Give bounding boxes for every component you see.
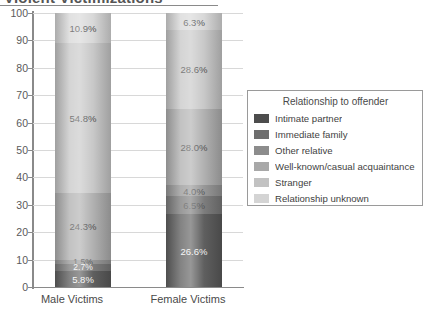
legend-item-label: Well-known/casual acquaintance	[275, 161, 415, 172]
bar-segment-female[interactable]: 28.6%	[166, 30, 222, 108]
bar-male-victims[interactable]: 10.9%54.8%24.3%1.5%2.7%5.8%	[55, 13, 111, 287]
legend-item-label: Intimate partner	[275, 113, 342, 124]
legend-item-label: Other relative	[275, 145, 333, 156]
y-axis-tick: 30	[16, 200, 28, 210]
legend-item[interactable]: Stranger	[254, 175, 417, 190]
bar-segment-value-label: 6.5%	[166, 200, 222, 211]
bar-segment-male[interactable]: 10.9%	[55, 13, 111, 43]
y-axis-tick: 10	[16, 255, 28, 265]
legend-item[interactable]: Immediate family	[254, 127, 417, 142]
legend-item[interactable]: Relationship unknown	[254, 191, 417, 206]
bar-female-victims[interactable]: 6.3%28.6%28.0%4.0%6.5%26.6%	[166, 13, 222, 287]
bar-segment-value-label: 26.6%	[166, 245, 222, 256]
bar-segment-value-label: 6.3%	[166, 16, 222, 27]
x-axis-label-female: Female Victims	[140, 293, 236, 305]
bar-segment-value-label: 28.0%	[166, 142, 222, 153]
bar-segment-male[interactable]: 24.3%	[55, 193, 111, 260]
x-axis-line	[32, 287, 244, 288]
legend-swatch-icon	[254, 194, 269, 203]
legend-item-label: Relationship unknown	[275, 193, 369, 204]
bar-segment-value-label: 28.6%	[166, 64, 222, 75]
bar-segment-male[interactable]: 2.7%	[55, 264, 111, 271]
bar-segment-male[interactable]: 54.8%	[55, 43, 111, 193]
legend-swatch-icon	[254, 114, 269, 123]
y-axis-tick: 20	[16, 227, 28, 237]
bar-segment-value-label: 10.9%	[55, 22, 111, 33]
y-axis-tick-labels: 1009080706050403020100	[0, 13, 28, 287]
bar-segment-value-label: 5.8%	[55, 274, 111, 285]
plot-area: 10.9%54.8%24.3%1.5%2.7%5.8% 6.3%28.6%28.…	[33, 13, 243, 287]
bar-segment-female[interactable]: 28.0%	[166, 109, 222, 186]
y-axis-tick: 50	[16, 145, 28, 155]
legend: Relationship to offender Intimate partne…	[247, 90, 423, 206]
bar-segment-female[interactable]: 6.5%	[166, 196, 222, 214]
x-axis-label-male: Male Victims	[33, 293, 111, 305]
legend-item[interactable]: Intimate partner	[254, 111, 417, 126]
legend-swatch-icon	[254, 162, 269, 171]
legend-item-label: Stranger	[275, 177, 312, 188]
y-axis-tick: 100	[10, 8, 28, 18]
legend-swatch-icon	[254, 130, 269, 139]
bar-segment-value-label: 54.8%	[55, 112, 111, 123]
bar-segment-value-label: 4.0%	[166, 185, 222, 196]
legend-swatch-icon	[254, 146, 269, 155]
y-axis-tick: 70	[16, 90, 28, 100]
bar-segment-female[interactable]: 26.6%	[166, 214, 222, 287]
y-axis-tick: 60	[16, 118, 28, 128]
bar-segment-female[interactable]: 6.3%	[166, 13, 222, 30]
bar-segment-male[interactable]: 5.8%	[55, 271, 111, 287]
legend-item-label: Immediate family	[275, 129, 348, 140]
y-axis-tick-mark	[28, 287, 33, 288]
legend-item[interactable]: Well-known/casual acquaintance	[254, 159, 417, 174]
bar-segment-female[interactable]: 4.0%	[166, 185, 222, 196]
y-axis-tick: 80	[16, 63, 28, 73]
y-axis-tick: 90	[16, 35, 28, 45]
legend-swatch-icon	[254, 178, 269, 187]
legend-items: Intimate partnerImmediate familyOther re…	[254, 111, 417, 206]
title-divider	[0, 5, 218, 6]
bar-segment-value-label: 24.3%	[55, 221, 111, 232]
legend-item[interactable]: Other relative	[254, 143, 417, 158]
legend-title: Relationship to offender	[254, 96, 417, 107]
y-axis-tick: 40	[16, 172, 28, 182]
